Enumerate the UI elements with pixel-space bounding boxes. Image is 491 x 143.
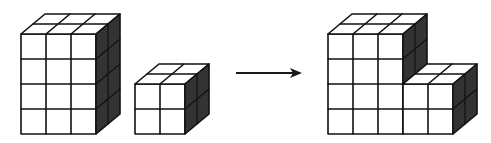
- diagram-stage: Two cube stacks combine into one L-shape…: [0, 0, 491, 143]
- combined-cube-stack: [328, 14, 477, 134]
- arrow-right-icon: [236, 68, 302, 78]
- small-cube-stack: [135, 64, 209, 134]
- tall-cube-stack: [21, 14, 120, 134]
- cube-diagram: [0, 0, 491, 143]
